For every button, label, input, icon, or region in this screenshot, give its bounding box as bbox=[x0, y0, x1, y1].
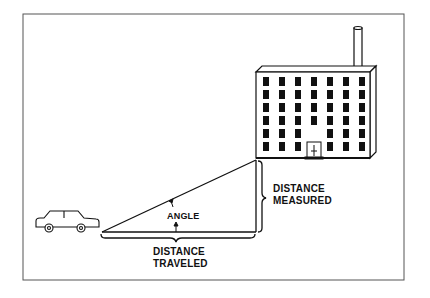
distance-traveled-brace bbox=[101, 234, 255, 242]
building-door bbox=[305, 142, 323, 159]
distance-measured-line1: DISTANCE bbox=[273, 183, 332, 195]
distance-traveled-line1: DISTANCE bbox=[153, 246, 208, 258]
distance-measured-line2: MEASURED bbox=[273, 195, 332, 207]
distance-measured-label: DISTANCE MEASURED bbox=[273, 183, 332, 207]
distance-measured-brace bbox=[258, 161, 266, 232]
chimney bbox=[354, 28, 362, 70]
triangulation-diagram bbox=[0, 0, 430, 298]
distance-traveled-line2: TRAVELED bbox=[153, 258, 208, 270]
angle-label: ANGLE bbox=[167, 210, 200, 222]
car-icon bbox=[36, 211, 99, 232]
distance-traveled-label: DISTANCE TRAVELED bbox=[153, 246, 208, 270]
